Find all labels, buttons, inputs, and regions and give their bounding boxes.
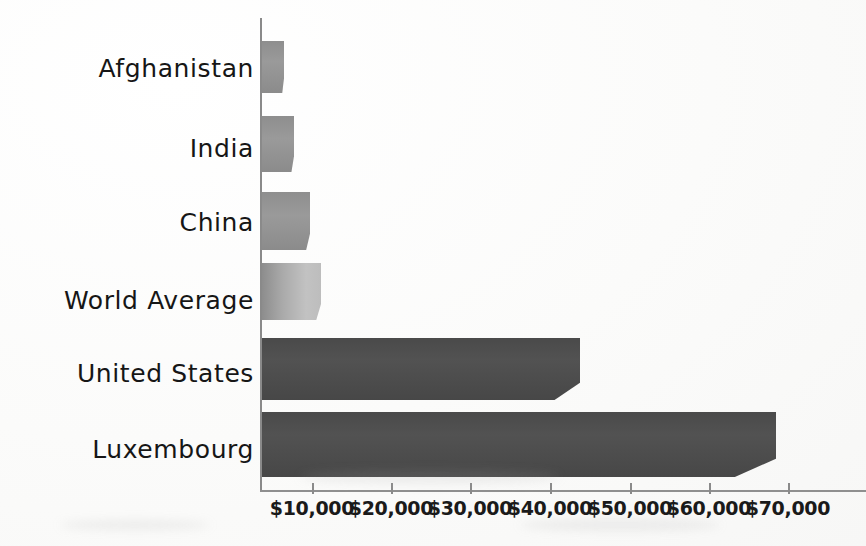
scan-smudge: [300, 470, 560, 484]
tick-label-30000: $30,000: [428, 497, 512, 519]
tick-label-50000: $50,000: [588, 497, 672, 519]
scan-smudge: [60, 520, 210, 530]
tick-label-70000: $70,000: [746, 497, 830, 519]
category-label-united-states: United States: [77, 361, 254, 386]
category-label-india: India: [190, 136, 254, 161]
bar-afghanistan: [262, 41, 284, 93]
tick-mark-60000: [709, 483, 711, 494]
tick-mark-30000: [470, 483, 472, 494]
tick-mark-50000: [630, 483, 632, 494]
tick-label-40000: $40,000: [508, 497, 592, 519]
tick-mark-70000: [788, 483, 790, 494]
tick-label-20000: $20,000: [349, 497, 433, 519]
tick-mark-10000: [312, 483, 314, 494]
category-label-luxembourg: Luxembourg: [92, 437, 254, 462]
tick-mark-40000: [550, 483, 552, 494]
x-axis-line: [260, 490, 866, 492]
tick-mark-20000: [391, 483, 393, 494]
bar-world-average: [262, 263, 321, 320]
horizontal-bar-chart: Afghanistan India China World Average Un…: [0, 0, 866, 546]
scan-smudge: [520, 519, 720, 531]
tick-label-60000: $60,000: [667, 497, 751, 519]
bar-luxembourg: [262, 412, 776, 477]
bar-india: [262, 116, 294, 172]
bar-united-states: [262, 338, 580, 400]
tick-label-10000: $10,000: [270, 497, 354, 519]
bar-china: [262, 192, 310, 250]
category-label-china: China: [180, 210, 254, 235]
category-label-afghanistan: Afghanistan: [99, 56, 254, 81]
category-label-world-average: World Average: [64, 288, 254, 313]
